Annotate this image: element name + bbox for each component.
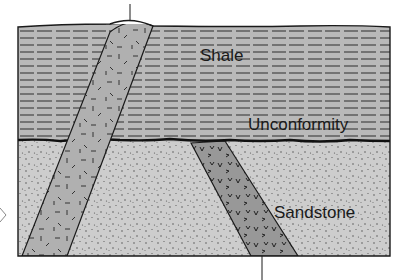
arrow-icon — [0, 208, 6, 222]
sandstone-label: Sandstone — [274, 203, 355, 222]
unconformity-label: Unconformity — [248, 115, 349, 134]
cross-section-diagram: Shale Unconformity Sandstone — [0, 0, 407, 280]
shale-label: Shale — [200, 46, 243, 65]
